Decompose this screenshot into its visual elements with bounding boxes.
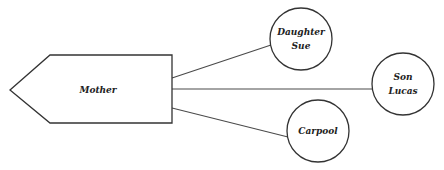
son-label-line2: Lucas — [387, 86, 417, 96]
son-node[interactable]: Son Lucas — [372, 53, 434, 115]
daughter-label-line2: Sue — [292, 41, 311, 51]
carpool-node[interactable]: Carpool — [287, 100, 349, 162]
son-circle — [372, 53, 434, 115]
daughter-circle — [270, 8, 332, 70]
connector-mother-carpool — [172, 108, 288, 137]
son-label-line1: Son — [393, 72, 412, 82]
mother-node[interactable]: Mother — [10, 55, 172, 123]
daughter-label-line1: Daughter — [276, 27, 326, 37]
carpool-label: Carpool — [298, 126, 338, 136]
diagram-canvas: Mother Daughter Sue Son Lucas Carpool — [0, 0, 444, 170]
daughter-node[interactable]: Daughter Sue — [270, 8, 332, 70]
mother-label: Mother — [78, 85, 117, 95]
connector-mother-daughter — [172, 45, 271, 78]
